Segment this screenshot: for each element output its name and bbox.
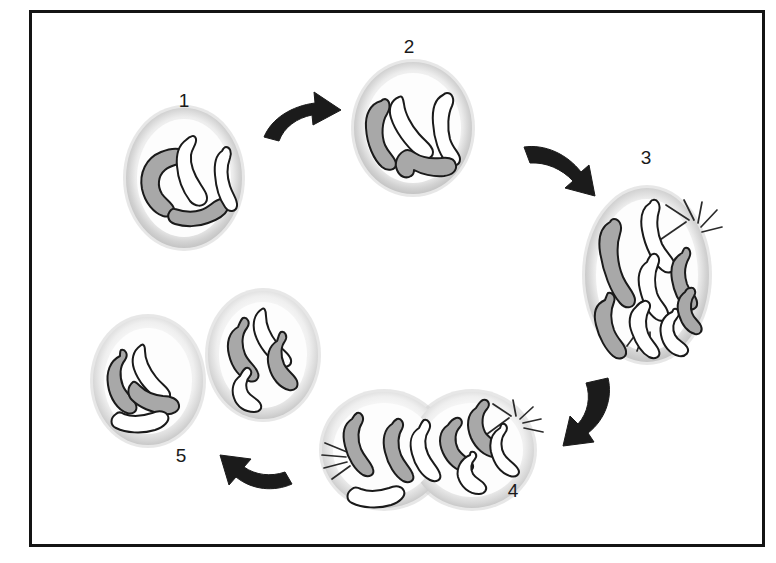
mitosis-diagram-svg: 12345 [0,0,776,563]
prophase-duplicated-chromosomes [351,59,475,197]
mitosis-figure: 12345 [0,0,776,563]
stage-number-label: 3 [641,147,652,168]
stage-number-label: 4 [508,480,519,501]
stage-number-label: 1 [179,90,190,111]
interphase-cell [123,105,245,251]
stage-number-label: 2 [404,36,415,57]
stage-number-label: 5 [176,445,187,466]
